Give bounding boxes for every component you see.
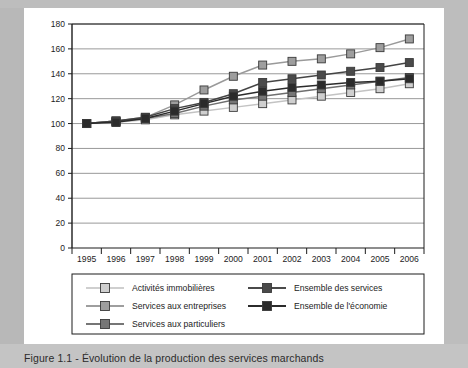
figure-content: 020406080100120140160180 199519961997199… (24, 8, 444, 344)
series-marker (288, 96, 296, 104)
series-marker (112, 118, 120, 126)
series-marker (405, 59, 413, 67)
legend-item-label: Services aux entreprises (132, 301, 226, 311)
x-axis-tick-label: 1996 (106, 254, 125, 264)
series-marker (288, 83, 296, 91)
y-axis-tick-label: 20 (56, 218, 66, 228)
series-marker (259, 87, 267, 95)
legend-item-label: Activités immobilières (132, 283, 215, 293)
legend-marker-swatch (101, 302, 110, 311)
y-axis-tick-label: 40 (56, 193, 66, 203)
x-axis-tick-label: 1998 (165, 254, 184, 264)
series-marker (317, 71, 325, 79)
series-line (87, 79, 410, 124)
series-marker (317, 92, 325, 100)
x-axis-tick-label: 2003 (312, 254, 331, 264)
series-marker (259, 100, 267, 108)
series-marker (317, 81, 325, 89)
series-marker (259, 78, 267, 86)
series-marker (83, 120, 91, 128)
line-chart: 020406080100120140160180 199519961997199… (24, 8, 444, 344)
series-marker (317, 55, 325, 63)
series-marker (288, 57, 296, 65)
series-marker (347, 50, 355, 58)
legend-item-label: Ensemble des services (294, 283, 382, 293)
y-axis-tick-label: 100 (51, 119, 65, 129)
series-marker (376, 44, 384, 52)
legend-item-label: Services aux particuliers (132, 319, 225, 329)
series-marker (347, 67, 355, 75)
series-marker (288, 75, 296, 83)
series-marker (376, 85, 384, 93)
legend-item[interactable]: Ensemble de l'économie (248, 301, 388, 311)
legend-marker-swatch (263, 302, 272, 311)
x-axis-tick-labels: 1995199619971998199920002001200220032004… (72, 248, 424, 264)
legend-item-label: Ensemble de l'économie (294, 301, 388, 311)
gridlines (72, 24, 424, 223)
series-marker (376, 64, 384, 72)
y-axis-tick-label: 80 (56, 143, 66, 153)
series-line (87, 78, 410, 124)
page-left-margin (0, 0, 24, 368)
series-line (87, 39, 410, 124)
y-axis-tick-label: 0 (60, 243, 65, 253)
legend-item[interactable]: Activités immobilières (86, 283, 215, 293)
x-axis-tick-label: 2001 (253, 254, 272, 264)
series-marker (200, 100, 208, 108)
x-axis-tick-label: 2004 (341, 254, 360, 264)
legend-marker-swatch (101, 320, 110, 329)
series-marker (171, 107, 179, 115)
series-marker (229, 92, 237, 100)
legend-marker-swatch (263, 284, 272, 293)
x-axis-tick-label: 1999 (194, 254, 213, 264)
data-series (83, 75, 414, 128)
series-marker (347, 88, 355, 96)
series-marker (141, 115, 149, 123)
y-axis-tick-label: 180 (51, 19, 65, 29)
legend-item[interactable]: Services aux particuliers (86, 319, 225, 329)
series-marker (259, 61, 267, 69)
y-axis-tick-label: 140 (51, 69, 65, 79)
x-axis-tick-label: 2000 (224, 254, 243, 264)
series-marker (229, 103, 237, 111)
series-marker (376, 77, 384, 85)
y-axis-tick-label: 160 (51, 44, 65, 54)
legend-item[interactable]: Services aux entreprises (86, 301, 226, 311)
x-axis-tick-label: 2002 (282, 254, 301, 264)
page-top-margin (0, 0, 468, 8)
page-background: 020406080100120140160180 199519961997199… (0, 0, 468, 368)
series-marker (229, 72, 237, 80)
x-axis-tick-label: 1997 (136, 254, 155, 264)
y-axis-tick-label: 120 (51, 94, 65, 104)
series-marker (405, 75, 413, 83)
y-axis-tick-label: 60 (56, 168, 66, 178)
x-axis-tick-label: 1995 (77, 254, 96, 264)
legend-marker-swatch (101, 284, 110, 293)
series-marker (200, 86, 208, 94)
y-axis-tick-labels: 020406080100120140160180 (51, 19, 65, 253)
figure-caption: Figure 1.1 - Évolution de la production … (24, 352, 454, 364)
x-axis-tick-label: 2005 (370, 254, 389, 264)
axes (68, 24, 424, 248)
legend-item[interactable]: Ensemble des services (248, 283, 382, 293)
figure-card: 020406080100120140160180 199519961997199… (24, 8, 444, 344)
chart-legend: Activités immobilièresServices aux entre… (72, 274, 424, 334)
x-axis-tick-label: 2006 (400, 254, 419, 264)
page-right-margin (444, 0, 468, 368)
series-marker (405, 35, 413, 43)
series-marker (347, 78, 355, 86)
series-line (87, 84, 410, 124)
